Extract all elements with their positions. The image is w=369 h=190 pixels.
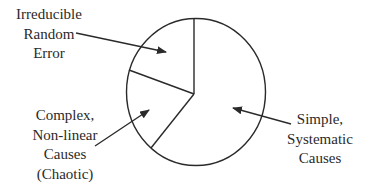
pie-circle [127, 19, 266, 166]
label-complex-nonlinear-causes: Complex, Non-linear Causes (Chaotic) [22, 106, 108, 184]
label-line: Irreducible [6, 5, 92, 25]
label-line: Causes [277, 149, 363, 169]
pie-divider-upper-left [129, 70, 194, 94]
label-line: Causes [22, 145, 108, 165]
label-line: Systematic [277, 130, 363, 150]
label-line: Random [6, 25, 92, 45]
label-line: Non-linear [22, 126, 108, 146]
label-line: Error [6, 44, 92, 64]
label-line: Simple, [277, 110, 363, 130]
label-line: Complex, [22, 106, 108, 126]
pie-divider-lower-left [151, 94, 194, 148]
label-irreducible-random-error: Irreducible Random Error [6, 5, 92, 64]
label-line: (Chaotic) [22, 165, 108, 185]
label-simple-systematic-causes: Simple, Systematic Causes [277, 110, 363, 169]
